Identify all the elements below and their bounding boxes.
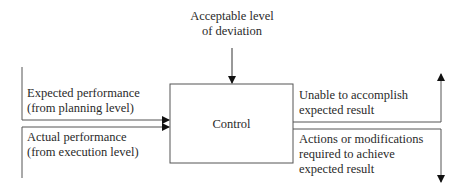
top-input-line2: of deviation bbox=[182, 24, 282, 39]
actual-line1: Actual performance bbox=[27, 130, 139, 145]
unable-line1: Unable to accomplish bbox=[299, 88, 408, 103]
process-box-label: Control bbox=[170, 117, 293, 132]
actions-line2: required to achieve bbox=[299, 147, 423, 162]
actions-line1: Actions or modifications bbox=[299, 132, 423, 147]
unable-output-label: Unable to accomplish expected result bbox=[299, 88, 408, 118]
unable-line2: expected result bbox=[299, 103, 408, 118]
actual-line2: (from execution level) bbox=[27, 145, 139, 160]
expected-performance-label: Expected performance (from planning leve… bbox=[27, 86, 140, 116]
control-label: Control bbox=[170, 117, 293, 132]
expected-line1: Expected performance bbox=[27, 86, 140, 101]
top-input-line1: Acceptable level bbox=[182, 9, 282, 24]
expected-line2: (from planning level) bbox=[27, 101, 140, 116]
top-input-label: Acceptable level of deviation bbox=[182, 9, 282, 39]
actions-output-label: Actions or modifications required to ach… bbox=[299, 132, 423, 177]
actions-line3: expected result bbox=[299, 162, 423, 177]
actual-performance-label: Actual performance (from execution level… bbox=[27, 130, 139, 160]
